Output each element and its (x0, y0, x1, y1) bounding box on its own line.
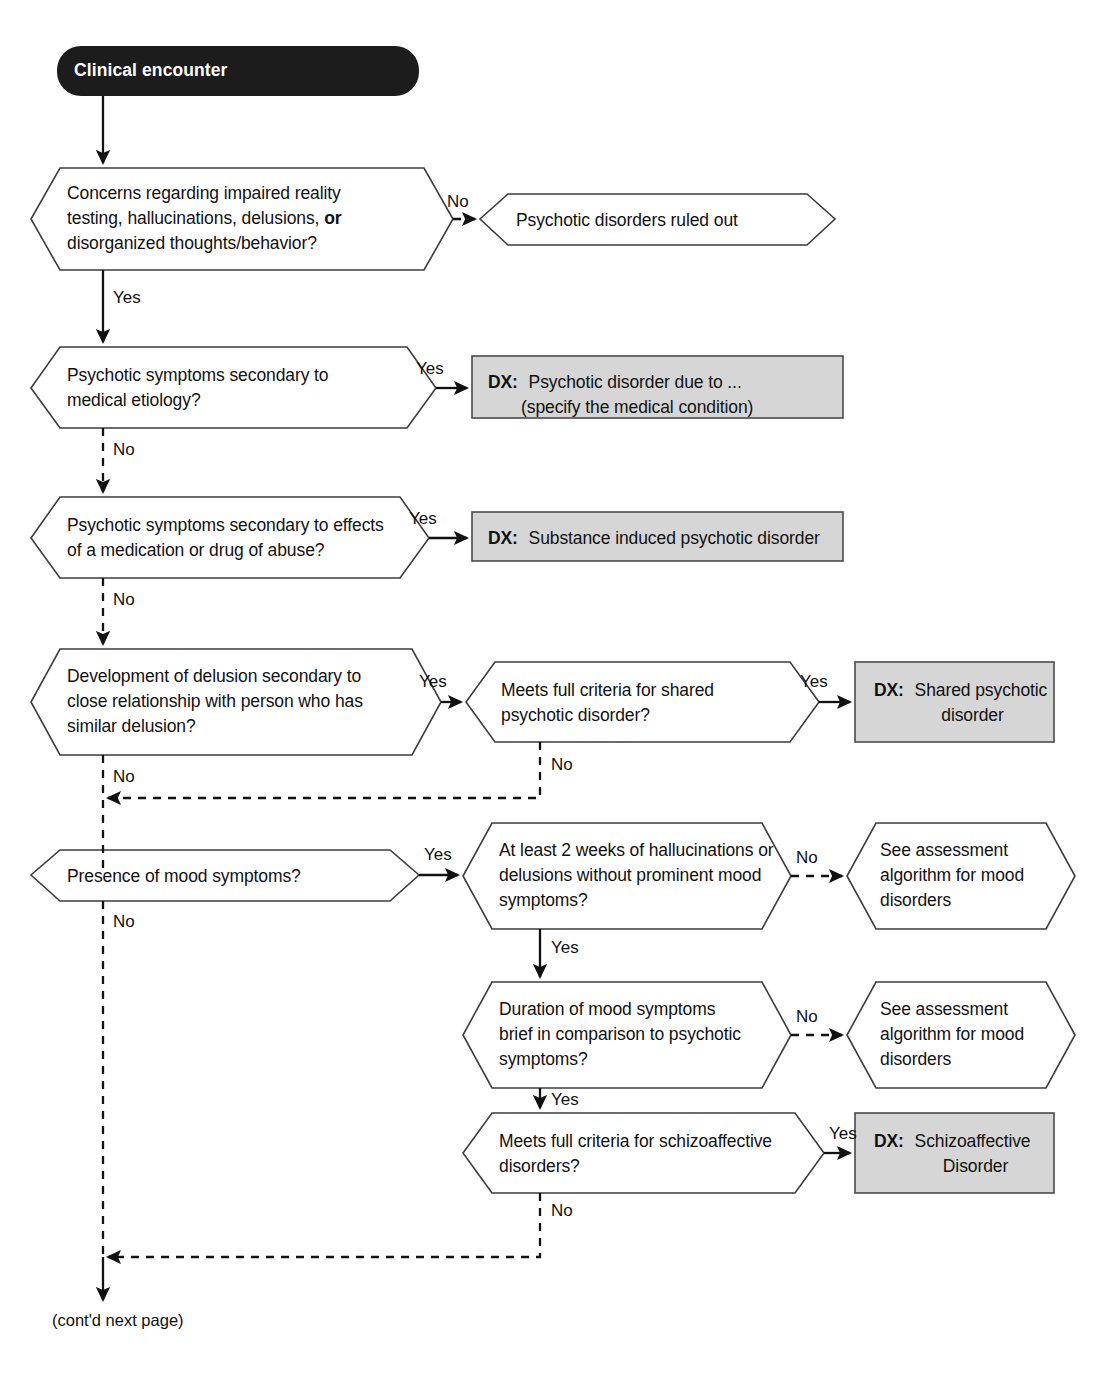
outcome-ruled-out-line-1: Psychotic disorders ruled out (516, 208, 836, 233)
decision-6-label: Presence of mood symptoms? (67, 864, 407, 889)
dx-4-line-1: Schizoaffective (915, 1131, 1031, 1151)
decision-8-line-3: symptoms? (499, 1047, 789, 1072)
decision-3-line-1: Psychotic symptoms secondary to effects (67, 513, 427, 538)
decision-8-line-1: Duration of mood symptoms (499, 997, 789, 1022)
edge-d9-no (108, 1193, 540, 1257)
dx-1-line-2: (specify the medical condition) (488, 395, 838, 420)
edge-label-d4-no: No (113, 767, 135, 787)
decision-9-line-2: disorders? (499, 1154, 819, 1179)
decision-2-label: Psychotic symptoms secondary to medical … (67, 363, 427, 413)
decision-2-line-2: medical etiology? (67, 388, 427, 413)
decision-7-line-2: delusions without prominent mood (499, 863, 789, 888)
edge-label-d6-no: No (113, 912, 135, 932)
decision-7-line-1: At least 2 weeks of hallucinations or (499, 838, 789, 863)
dx-4-prefix: DX: (874, 1131, 904, 1151)
edge-label-d1-no: No (447, 192, 469, 212)
decision-1-line-3: disorganized thoughts/behavior? (67, 231, 439, 256)
decision-9-line-1: Meets full criteria for schizoaffective (499, 1129, 819, 1154)
decision-4-line-2: close relationship with person who has (67, 689, 432, 714)
decision-3-line-2: of a medication or drug of abuse? (67, 538, 427, 563)
decision-5-line-1: Meets full criteria for shared (501, 678, 801, 703)
edge-label-d3-yes: Yes (409, 509, 437, 529)
edge-label-d3-no: No (113, 590, 135, 610)
dx-3-label: DX: Shared psychotic disorder (874, 678, 1049, 728)
decision-9-label: Meets full criteria for schizoaffective … (499, 1129, 819, 1179)
decision-3-label: Psychotic symptoms secondary to effects … (67, 513, 427, 563)
edge-label-d5-yes: Yes (800, 672, 828, 692)
edge-label-d2-yes: Yes (416, 359, 444, 379)
decision-7-label: At least 2 weeks of hallucinations or de… (499, 838, 789, 914)
decision-2-line-1: Psychotic symptoms secondary to (67, 363, 427, 388)
dx-2-label: DX: Substance induced psychotic disorder (488, 526, 838, 551)
edge-label-d2-no: No (113, 440, 135, 460)
decision-1-line-1: Concerns regarding impaired reality (67, 181, 439, 206)
outcome-mood-1-line-2: algorithm for mood (880, 863, 1070, 888)
dx-4-label: DX: Schizoaffective Disorder (874, 1129, 1049, 1179)
edge-label-d7-yes: Yes (551, 938, 579, 958)
dx-1-line-1: Psychotic disorder due to ... (529, 372, 742, 392)
dx-4-line-2: Disorder (874, 1154, 1049, 1179)
outcome-mood-1-line-3: disorders (880, 888, 1070, 913)
decision-4-line-3: similar delusion? (67, 714, 432, 739)
decision-8-line-2: brief in comparison to psychotic (499, 1022, 789, 1047)
outcome-mood-2-line-3: disorders (880, 1047, 1070, 1072)
edge-label-d5-no: No (551, 755, 573, 775)
decision-1-line-2: testing, hallucinations, delusions, or (67, 206, 439, 231)
dx-1-label: DX: Psychotic disorder due to ... (speci… (488, 370, 838, 420)
edge-label-d1-yes: Yes (113, 288, 141, 308)
edge-label-d8-no: No (796, 1007, 818, 1027)
outcome-mood-2-line-2: algorithm for mood (880, 1022, 1070, 1047)
continuation-note: (cont'd next page) (52, 1311, 184, 1330)
outcome-ruled-out-label: Psychotic disorders ruled out (516, 208, 836, 233)
decision-6-line-1: Presence of mood symptoms? (67, 864, 407, 889)
dx-3-line-1: Shared psychotic (915, 680, 1048, 700)
edge-label-d8-yes: Yes (551, 1090, 579, 1110)
dx-2-prefix: DX: (488, 528, 518, 548)
start-node-label: Clinical encounter (74, 60, 404, 81)
outcome-mood-2-label: See assessment algorithm for mood disord… (880, 997, 1070, 1073)
dx-3-prefix: DX: (874, 680, 904, 700)
decision-4-line-1: Development of delusion secondary to (67, 664, 432, 689)
outcome-mood-2-line-1: See assessment (880, 997, 1070, 1022)
decision-8-label: Duration of mood symptoms brief in compa… (499, 997, 789, 1073)
edge-label-d6-yes: Yes (424, 845, 452, 865)
decision-5-label: Meets full criteria for shared psychotic… (501, 678, 801, 728)
flowchart-canvas: Clinical encounter Concerns regarding im… (0, 0, 1100, 1379)
decision-4-label: Development of delusion secondary to clo… (67, 664, 432, 740)
edge-label-d9-yes: Yes (829, 1124, 857, 1144)
dx-3-line-2: disorder (874, 703, 1049, 728)
decision-1-label: Concerns regarding impaired reality test… (67, 181, 439, 257)
edge-label-d4-yes: Yes (419, 672, 447, 692)
dx-1-prefix: DX: (488, 372, 518, 392)
edge-label-d7-no: No (796, 848, 818, 868)
decision-7-line-3: symptoms? (499, 888, 789, 913)
outcome-mood-1-line-1: See assessment (880, 838, 1070, 863)
dx-2-line-1: Substance induced psychotic disorder (529, 528, 820, 548)
decision-5-line-2: psychotic disorder? (501, 703, 801, 728)
outcome-mood-1-label: See assessment algorithm for mood disord… (880, 838, 1070, 914)
edge-label-d9-no: No (551, 1201, 573, 1221)
